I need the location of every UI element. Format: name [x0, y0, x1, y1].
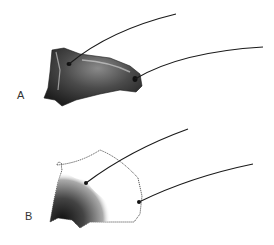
panel-label-b: B	[25, 210, 32, 222]
panel-b	[50, 129, 253, 228]
seta-b2	[139, 164, 253, 202]
panel-label-a: A	[17, 89, 24, 101]
illustration	[0, 0, 274, 245]
panel-a	[44, 14, 263, 106]
seta-a2	[135, 47, 263, 79]
figure	[0, 0, 274, 245]
